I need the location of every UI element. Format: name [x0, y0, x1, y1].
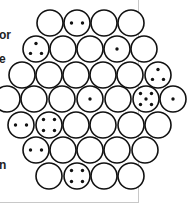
pip-dot — [162, 78, 165, 81]
circle — [23, 36, 49, 62]
pip-dot — [14, 123, 17, 126]
circle-cell — [145, 62, 171, 88]
circle — [118, 10, 144, 36]
pip-dot — [139, 92, 142, 95]
circle — [117, 62, 143, 88]
circle — [36, 163, 62, 189]
pip-dot — [42, 129, 45, 132]
circle-cell — [118, 10, 144, 36]
circle — [132, 137, 158, 163]
circle — [105, 86, 131, 112]
circle — [9, 62, 35, 88]
circle — [23, 137, 49, 163]
circle — [49, 86, 75, 112]
circle-cell — [23, 137, 49, 163]
circle-cell — [90, 112, 116, 138]
circle — [63, 112, 89, 138]
pip-dot — [88, 97, 91, 100]
circle — [21, 86, 47, 112]
pip-dot — [70, 21, 73, 24]
circle — [131, 36, 157, 62]
circle-cell — [90, 62, 116, 88]
pip-dot — [70, 180, 73, 183]
circle-cell — [49, 86, 75, 112]
circle-cell — [36, 62, 62, 88]
circle-cell — [63, 112, 89, 138]
circle — [91, 163, 117, 189]
circle-cell — [131, 36, 157, 62]
pip-dot — [81, 180, 84, 183]
circle-cell — [91, 10, 117, 36]
circle-cell — [145, 112, 171, 138]
pip-dot — [156, 68, 159, 71]
circle-cell — [118, 112, 144, 138]
circle-cell — [105, 86, 131, 112]
circle-cell — [117, 62, 143, 88]
circle — [36, 112, 62, 138]
circle — [8, 112, 34, 138]
circle — [50, 137, 76, 163]
circle-cell — [37, 10, 63, 36]
pip-dot — [150, 92, 153, 95]
circle — [104, 137, 130, 163]
circle-cell — [0, 86, 20, 112]
pip-dot — [171, 97, 174, 100]
circle-cell — [133, 86, 159, 112]
circle-cell — [8, 112, 34, 138]
circle-cell — [132, 137, 158, 163]
pip-dot — [42, 118, 45, 121]
pip-dot — [151, 78, 154, 81]
circle-cell — [91, 163, 117, 189]
circle-cell — [118, 163, 144, 189]
pip-dot — [40, 148, 43, 151]
circle — [37, 10, 63, 36]
circle-cell — [104, 137, 130, 163]
pip-dot — [139, 103, 142, 106]
pip-dot — [115, 47, 118, 50]
circle — [90, 112, 116, 138]
pip-dot — [144, 97, 147, 100]
circle-cell — [64, 163, 90, 189]
hex-circle-diagram — [0, 0, 191, 205]
circle — [77, 137, 103, 163]
circle-cell — [36, 163, 62, 189]
circle-cell — [160, 86, 186, 112]
circle-cell — [50, 137, 76, 163]
circle — [50, 36, 76, 62]
circle-cell — [104, 36, 130, 62]
circle-cell — [21, 86, 47, 112]
pip-dot — [40, 52, 43, 55]
circle-cell — [77, 86, 103, 112]
pip-dot — [81, 169, 84, 172]
circle — [145, 62, 171, 88]
circle — [90, 62, 116, 88]
pip-dot — [29, 148, 32, 151]
circle — [64, 10, 90, 36]
circle-cell — [63, 62, 89, 88]
pip-dot — [29, 52, 32, 55]
circle — [63, 62, 89, 88]
pip-dot — [81, 21, 84, 24]
circle — [91, 10, 117, 36]
pip-dot — [70, 169, 73, 172]
circle — [0, 86, 20, 112]
pip-dot — [25, 123, 28, 126]
circle-cell — [64, 10, 90, 36]
circle — [118, 163, 144, 189]
circle-cell — [77, 137, 103, 163]
circle-cell — [50, 36, 76, 62]
circle — [64, 163, 90, 189]
circle — [118, 112, 144, 138]
circle — [145, 112, 171, 138]
circle-cell — [9, 62, 35, 88]
pip-dot — [53, 118, 56, 121]
pip-dot — [53, 129, 56, 132]
circle-cell — [36, 112, 62, 138]
pip-dot — [150, 103, 153, 106]
circle-cell — [77, 36, 103, 62]
circle — [36, 62, 62, 88]
pip-dot — [34, 42, 37, 45]
circle — [77, 36, 103, 62]
circle-cell — [23, 36, 49, 62]
